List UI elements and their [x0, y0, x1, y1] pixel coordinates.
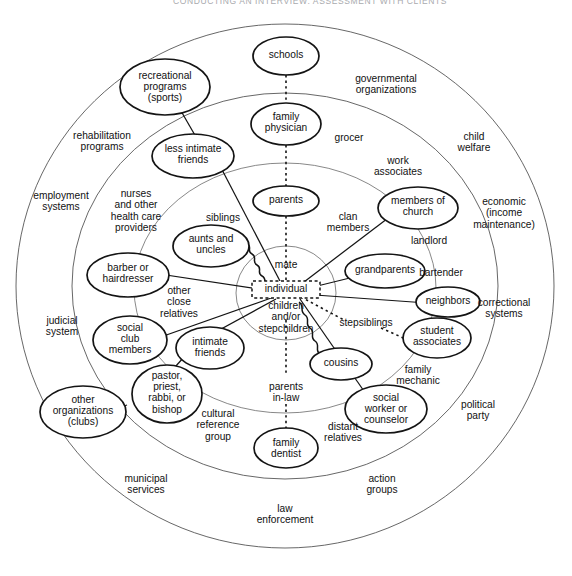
- label-municipal-services: municipalservices: [111, 473, 181, 496]
- label-children-or-stepchildren: childrenand/orstepchildren: [248, 300, 324, 334]
- label-bartender: bartender: [410, 267, 472, 278]
- node-family-physician-label: familyphysician: [251, 111, 321, 133]
- label-distant-relatives: distantrelatives: [312, 421, 374, 444]
- node-other-organizations-label: otherorganizations(clubs): [41, 394, 125, 428]
- label-nurses-health-care: nursesand otherhealth careproviders: [101, 188, 171, 234]
- node-student-associates-label: studentassociates: [403, 325, 471, 347]
- link-recreational-less-intimate-friends: [181, 111, 196, 137]
- label-economic-income-maintenance: economic(incomemaintenance): [461, 196, 547, 230]
- node-aunts-and-uncles-label: aunts anduncles: [173, 233, 249, 255]
- label-rehabilitation-programs: rehabilitationprograms: [54, 130, 150, 153]
- label-stepsiblings: stepsiblings: [330, 317, 402, 328]
- label-landlord: landlord: [399, 235, 459, 246]
- ecomap-figure: CONDUCTING AN INTERVIEW: ASSESSMENT WITH…: [0, 0, 572, 576]
- node-schools-label: schools: [253, 49, 319, 60]
- label-work-associates: workassociates: [367, 155, 429, 178]
- label-action-groups: actiongroups: [353, 473, 411, 496]
- label-employment-systems: employmentsystems: [20, 190, 102, 213]
- label-siblings: siblings: [196, 212, 250, 223]
- label-parents-in-law: parentsin-law: [256, 381, 316, 404]
- label-correctional-systems: correctionalsystems: [465, 297, 543, 320]
- node-recreational-label: recreationalprograms(sports): [120, 70, 210, 104]
- node-family-dentist-label: familydentist: [256, 437, 316, 459]
- node-parents-label: parents: [253, 194, 319, 205]
- node-intimate-friends-label: intimatefriends: [177, 336, 243, 358]
- label-clan-members: clanmembers: [318, 211, 378, 234]
- node-cousins-label: cousins: [311, 357, 371, 368]
- label-grocer: grocer: [324, 132, 374, 143]
- label-other-close-relatives: othercloserelatives: [148, 285, 210, 319]
- label-law-enforcement: lawenforcement: [240, 503, 330, 526]
- node-barber-label: barber orhairdresser: [88, 262, 168, 284]
- label-political-party: politicalparty: [447, 399, 509, 422]
- label-family-mechanic: familymechanic: [386, 364, 450, 387]
- label-governmental-organizations: governmentalorganizations: [340, 73, 432, 96]
- node-social-club-label: socialclubmembers: [94, 322, 166, 356]
- node-members-of-church-label: members ofchurch: [378, 195, 458, 217]
- node-less-intimate-label: less intimatefriends: [153, 143, 233, 165]
- label-cultural-reference-group: culturalreferencegroup: [183, 408, 253, 442]
- label-child-welfare: childwelfare: [446, 131, 502, 154]
- label-mate: mate: [258, 259, 314, 270]
- label-judicial-system: judicialsystem: [33, 315, 91, 338]
- individual-label: individual: [254, 283, 318, 294]
